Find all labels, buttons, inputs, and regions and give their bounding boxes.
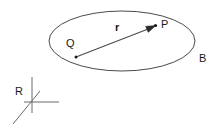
ellipse-body-label: B [199, 52, 206, 64]
point-p-dot [154, 24, 157, 27]
point-q-label: Q [66, 37, 75, 49]
vector-r-label: r [115, 21, 120, 33]
vector-r-line [76, 28, 152, 58]
point-q-dot [75, 56, 78, 59]
point-p-label: P [161, 18, 168, 30]
diagram-svg: Q P r B R [0, 0, 220, 131]
geometry-diagram-canvas: Q P r B R [0, 0, 220, 131]
reference-frame-r-label: R [15, 85, 23, 97]
